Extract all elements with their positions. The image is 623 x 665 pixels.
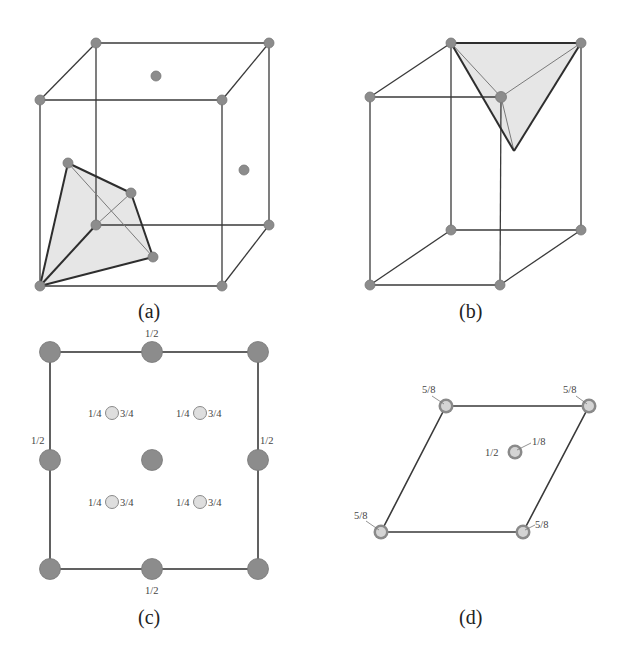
atom-light <box>194 407 207 420</box>
atom <box>495 280 505 290</box>
caption-a: (a) <box>138 300 160 323</box>
atom <box>91 38 101 48</box>
panel-b: (b) <box>365 38 586 323</box>
height-label: 1/2 <box>260 435 273 446</box>
atom <box>248 559 269 580</box>
caption-c: (c) <box>138 606 160 629</box>
atom-ring <box>582 399 597 414</box>
height-label: 1/8 <box>532 436 545 447</box>
atom-ring <box>439 399 454 414</box>
atom <box>446 38 456 48</box>
height-label: 1/4 <box>176 497 190 508</box>
caption-b: (b) <box>459 300 482 323</box>
atom-ring <box>516 525 531 540</box>
height-label: 3/4 <box>120 408 134 419</box>
atom <box>576 225 586 235</box>
height-label: 3/4 <box>208 497 222 508</box>
panel-a: (a) <box>35 38 274 323</box>
atom <box>365 92 375 102</box>
height-label: 1/4 <box>176 408 190 419</box>
height-label: 5/8 <box>563 384 576 395</box>
atom <box>217 281 227 291</box>
height-label: 1/4 <box>88 408 102 419</box>
rhombic-cell <box>381 406 589 532</box>
atom <box>365 280 375 290</box>
atom <box>91 220 101 230</box>
panel-c: 1/2 1/2 1/2 1/2 1/4 3/4 1/4 3/4 1/4 3/4 … <box>31 328 273 629</box>
height-label: 3/4 <box>120 497 134 508</box>
atom <box>35 281 45 291</box>
atom <box>35 95 45 105</box>
atom <box>63 158 73 168</box>
atom-ring <box>374 525 389 540</box>
height-label: 1/2 <box>485 447 498 458</box>
atom <box>40 342 61 363</box>
atom <box>217 95 227 105</box>
caption-d: (d) <box>459 606 482 629</box>
atom <box>264 38 274 48</box>
height-label: 5/8 <box>354 510 367 521</box>
height-label: 1/2 <box>145 585 158 596</box>
atom <box>142 450 163 471</box>
atom <box>446 225 456 235</box>
height-label: 1/4 <box>88 497 102 508</box>
atom-light <box>106 407 119 420</box>
atom-light <box>194 496 207 509</box>
atom-light <box>106 496 119 509</box>
atom <box>40 450 61 471</box>
atom <box>142 559 163 580</box>
height-label: 5/8 <box>422 384 435 395</box>
atom <box>148 252 158 262</box>
atom <box>264 220 274 230</box>
atom-ring <box>508 445 523 460</box>
atom <box>40 559 61 580</box>
atom <box>576 38 586 48</box>
atom <box>142 342 163 363</box>
atom <box>248 342 269 363</box>
height-label: 1/2 <box>145 328 158 339</box>
atom <box>126 188 136 198</box>
atom <box>151 71 161 81</box>
atom <box>496 92 507 103</box>
panel-d: 5/8 5/8 5/8 5/8 1/2 1/8 (d) <box>354 384 597 629</box>
atom <box>248 450 269 471</box>
height-label: 5/8 <box>535 519 548 530</box>
atom <box>239 165 249 175</box>
height-label: 3/4 <box>208 408 222 419</box>
crystal-structure-figure: (a) (b) <box>0 0 623 665</box>
height-label: 1/2 <box>31 435 44 446</box>
